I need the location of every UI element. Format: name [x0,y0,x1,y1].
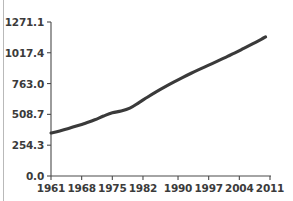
y-axis-ticks [47,22,51,176]
y-axis-tick-label: 254.3 [12,139,44,151]
x-axis-tick-label: 1982 [129,182,157,194]
y-axis-tick-label: 1017.4 [5,47,44,59]
x-axis-tick-label: 1961 [37,182,65,194]
y-axis-tick-label: 0.0 [26,170,44,182]
x-axis-tick-label: 2011 [256,182,284,194]
x-axis-tick-label: 1968 [67,182,95,194]
data-series-line [51,37,266,133]
chart-container: 0.0254.3508.7763.01017.41271.1 196119681… [0,0,293,201]
axes-group [51,22,271,176]
x-axis-tick-label: 1997 [194,182,222,194]
x-axis-tick-label: 1975 [98,182,126,194]
y-axis-tick-label: 508.7 [12,108,44,120]
y-axis-tick-label: 763.0 [12,78,44,90]
x-axis-tick-label: 1990 [164,182,192,194]
x-axis-tick-label: 2004 [225,182,253,194]
y-axis-tick-label: 1271.1 [5,16,44,28]
x-axis-ticks [51,176,270,180]
